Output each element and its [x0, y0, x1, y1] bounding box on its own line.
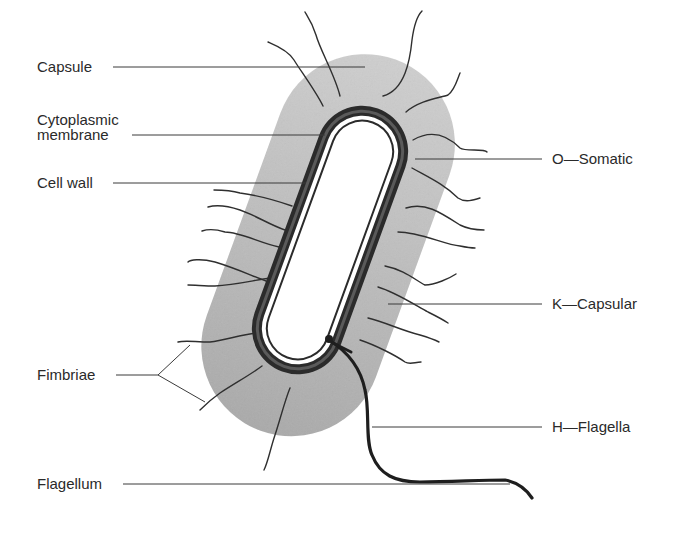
bacterial-cell-diagram: Capsule Cytoplasmic membrane Cell wall F…: [0, 0, 688, 535]
label-flagellum: Flagellum: [37, 476, 102, 492]
cell-illustration: [0, 0, 688, 535]
label-o-somatic: O—Somatic: [552, 151, 633, 167]
label-h-flagella: H—Flagella: [552, 419, 630, 435]
label-cytoplasmic-line1: Cytoplasmic: [37, 112, 119, 127]
label-capsule: Capsule: [37, 59, 92, 75]
label-k-capsular: K—Capsular: [552, 296, 637, 312]
label-cell-wall: Cell wall: [37, 175, 93, 191]
label-cytoplasmic-membrane: Cytoplasmic membrane: [37, 112, 119, 142]
label-fimbriae: Fimbriae: [37, 367, 95, 383]
label-cytoplasmic-line2: membrane: [37, 127, 119, 142]
